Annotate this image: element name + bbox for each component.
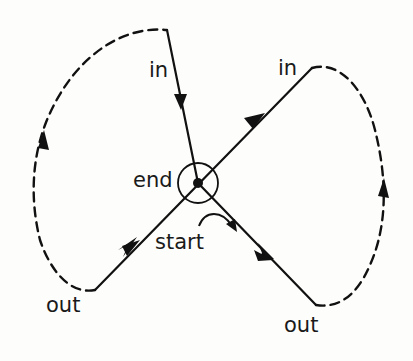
label-in-left: in bbox=[149, 60, 168, 81]
label-start: start bbox=[155, 232, 204, 253]
arrow-in-left-icon bbox=[174, 94, 187, 110]
label-out-left: out bbox=[46, 295, 80, 316]
label-end: end bbox=[133, 170, 173, 191]
right-dashed-loop bbox=[312, 67, 384, 306]
label-in-right: in bbox=[278, 58, 297, 79]
label-out-right: out bbox=[284, 315, 318, 336]
in-right-to-out-left-strand bbox=[95, 68, 312, 290]
out-right-strand bbox=[198, 183, 316, 305]
arrow-in-right-icon bbox=[244, 113, 265, 129]
crossing-dot bbox=[193, 178, 203, 188]
in-left-strand bbox=[167, 30, 198, 183]
left-dashed-loop bbox=[34, 30, 167, 291]
arrow-right-loop-icon bbox=[378, 178, 389, 198]
